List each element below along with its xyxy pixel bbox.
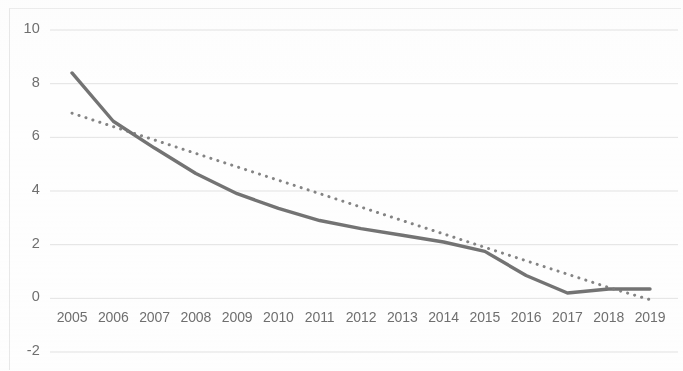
x-tick-label: 2009 [216,309,258,325]
x-tick-label: 2017 [546,309,588,325]
x-tick-label: 2006 [92,309,134,325]
x-tick-label: 2016 [505,309,547,325]
y-tick-label: -2 [6,342,40,358]
series-line-data [72,73,650,293]
y-tick-label: 6 [6,127,40,143]
y-tick-label: 10 [6,20,40,36]
gridline-group [50,30,678,352]
x-tick-label: 2008 [175,309,217,325]
y-tick-label: 0 [6,288,40,304]
series-group [72,73,650,300]
x-tick-label: 2018 [588,309,630,325]
x-tick-label: 2014 [423,309,465,325]
series-line-trendline [72,113,650,300]
x-tick-label: 2019 [629,309,671,325]
y-tick-label: 4 [6,181,40,197]
x-tick-label: 2005 [51,309,93,325]
y-tick-label: 2 [6,235,40,251]
x-tick-label: 2012 [340,309,382,325]
chart-figure: 1086420-2 200520062007200820092010201120… [0,0,683,371]
x-tick-label: 2011 [299,309,341,325]
y-tick-label: 8 [6,74,40,90]
x-tick-label: 2010 [257,309,299,325]
x-tick-label: 2007 [134,309,176,325]
x-tick-label: 2015 [464,309,506,325]
x-tick-label: 2013 [381,309,423,325]
